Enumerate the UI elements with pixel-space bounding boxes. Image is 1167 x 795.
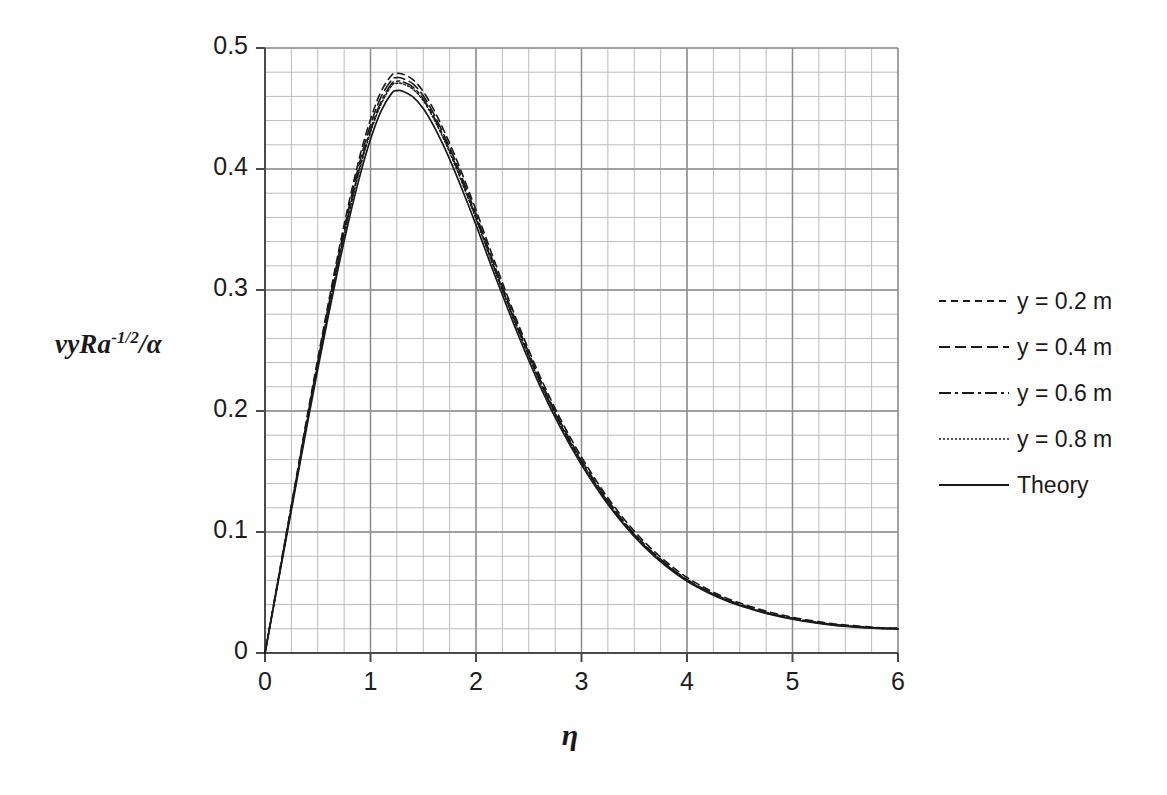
x-tick-label: 0 [245,667,285,696]
legend-item-2[interactable]: y = 0.4 m [938,324,1153,370]
x-tick-label: 2 [456,667,496,696]
legend-line-sample [938,340,1010,354]
chart-figure: vyRa-1/2/α η 00.10.20.30.40.50123456 y =… [0,0,1167,795]
y-tick-label: 0.3 [186,273,248,302]
legend-line-sample [938,432,1010,446]
legend-item-label: Theory [1010,472,1089,499]
x-tick-label: 4 [667,667,707,696]
legend-item-label: y = 0.6 m [1010,380,1112,407]
legend-item-label: y = 0.4 m [1010,334,1112,361]
legend-item-1[interactable]: y = 0.2 m [938,278,1153,324]
legend-line-sample [938,386,1010,400]
legend-item-label: y = 0.8 m [1010,426,1112,453]
legend-item-3[interactable]: y = 0.6 m [938,370,1153,416]
legend-line-sample [938,478,1010,492]
x-tick-label: 5 [773,667,813,696]
legend-item-label: y = 0.2 m [1010,288,1112,315]
legend-item-4[interactable]: y = 0.8 m [938,416,1153,462]
y-tick-label: 0.5 [186,31,248,60]
x-tick-label: 1 [351,667,391,696]
legend-item-5[interactable]: Theory [938,462,1153,508]
x-tick-label: 6 [878,667,918,696]
y-tick-label: 0.2 [186,394,248,423]
x-tick-label: 3 [562,667,602,696]
y-tick-label: 0.1 [186,515,248,544]
y-tick-label: 0 [186,636,248,665]
legend-line-sample [938,294,1010,308]
chart-legend: y = 0.2 my = 0.4 my = 0.6 my = 0.8 mTheo… [938,278,1153,508]
y-tick-label: 0.4 [186,152,248,181]
